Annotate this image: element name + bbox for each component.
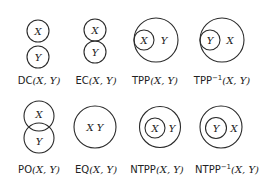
- caption-ntpp-inverse: NTPP−1(X, Y): [195, 164, 259, 176]
- region-y-label: Y: [169, 123, 177, 134]
- region-x-label: X: [139, 35, 148, 46]
- ntpp-figure: X Y: [140, 107, 181, 148]
- region-x-label: X: [229, 123, 238, 134]
- region-x-label: X: [150, 123, 159, 134]
- ntpp-inverse-figure: Y X: [200, 106, 242, 148]
- region-x-label: X: [90, 25, 99, 36]
- dc-figure: X Y: [27, 20, 49, 68]
- relation-args: (X, Y): [89, 75, 117, 86]
- relation-name: DC: [18, 75, 33, 86]
- region-xy-label: X Y: [86, 122, 105, 133]
- caption-tpp-inverse: TPP−1(X, Y): [194, 75, 250, 87]
- relation-args: (X, Y): [32, 164, 60, 175]
- ec-figure: X Y: [84, 19, 106, 63]
- relation-name: EQ: [75, 164, 89, 175]
- region-x-label: X: [34, 109, 43, 120]
- relation-args: (X, Y): [231, 164, 259, 175]
- caption-dc: DC(X, Y): [18, 75, 61, 87]
- relation-args: (X, Y): [32, 75, 60, 86]
- inverse-superscript: −1: [221, 163, 231, 171]
- relation-args: (X, Y): [222, 75, 250, 86]
- inverse-superscript: −1: [212, 74, 222, 82]
- po-figure: X Y: [24, 101, 54, 153]
- relation-name: PO: [18, 164, 32, 175]
- relation-name: TPP: [132, 75, 150, 86]
- region-x-label: X: [225, 35, 234, 46]
- rcc8-diagram: X Y X Y X Y Y X X Y X Y X Y: [0, 0, 270, 179]
- region-y-label: Y: [161, 35, 169, 46]
- relation-name: NTPP: [130, 164, 156, 175]
- eq-figure: X Y: [74, 106, 116, 148]
- region-y-label: Y: [36, 136, 44, 147]
- relation-name: TPP: [194, 75, 212, 86]
- caption-eq: EQ(X, Y): [75, 164, 117, 176]
- region-y-label: Y: [35, 52, 43, 63]
- region-y-label: Y: [207, 35, 215, 46]
- caption-po: PO(X, Y): [18, 164, 60, 176]
- relation-args: (X, Y): [89, 164, 117, 175]
- region-y-label: Y: [213, 123, 221, 134]
- tpp-figure: X Y: [134, 18, 178, 62]
- relation-name: NTPP: [195, 164, 221, 175]
- region-x-label: X: [33, 26, 42, 37]
- relation-name: EC: [75, 75, 88, 86]
- relation-args: (X, Y): [150, 75, 178, 86]
- caption-ntpp: NTPP(X, Y): [130, 164, 184, 176]
- region-y-label: Y: [92, 47, 100, 58]
- caption-ec: EC(X, Y): [75, 75, 116, 87]
- tpp-inverse-figure: Y X: [200, 18, 244, 62]
- relation-args: (X, Y): [156, 164, 184, 175]
- caption-tpp: TPP(X, Y): [132, 75, 178, 87]
